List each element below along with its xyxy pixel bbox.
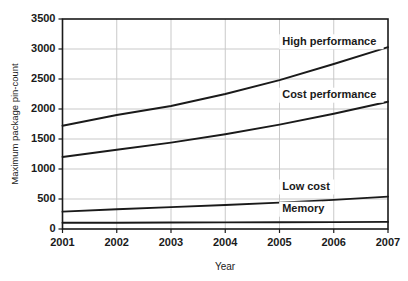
ytick-label-2000: 2000	[31, 102, 55, 114]
ytick-label-500: 500	[37, 192, 55, 204]
y-axis-tick-labels: 0500100015002000250030003500	[31, 12, 55, 234]
series-annotation-low-cost: Low cost	[282, 180, 330, 192]
ytick-label-3000: 3000	[31, 42, 55, 54]
xtick-label-2004: 2004	[213, 236, 238, 248]
chart-canvas: High performanceCost performanceLow cost…	[0, 0, 408, 281]
ytick-label-2500: 2500	[31, 72, 55, 84]
ytick-label-1000: 1000	[31, 162, 55, 174]
xtick-label-2002: 2002	[105, 236, 129, 248]
y-axis-title: Maximum package pin-count	[9, 63, 20, 185]
series-annotation-memory: Memory	[282, 202, 325, 214]
series-annotation-high-performance: High performance	[282, 35, 376, 47]
series-annotation-cost-performance: Cost performance	[282, 88, 376, 100]
pin-count-line-chart: High performanceCost performanceLow cost…	[0, 0, 408, 281]
series-annotations: High performanceCost performanceLow cost…	[279, 34, 383, 216]
ytick-label-3500: 3500	[31, 12, 55, 24]
x-axis-tick-labels: 2001200220032004200520062007	[50, 236, 400, 248]
ytick-label-1500: 1500	[31, 132, 55, 144]
ytick-label-0: 0	[49, 222, 55, 234]
xtick-label-2006: 2006	[322, 236, 346, 248]
xtick-label-2003: 2003	[159, 236, 183, 248]
axis-tick-marks	[59, 19, 389, 233]
xtick-label-2001: 2001	[50, 236, 74, 248]
x-axis-title: Year	[215, 261, 236, 272]
series-line-memory	[63, 222, 389, 223]
vertical-gridlines	[117, 19, 334, 229]
xtick-label-2007: 2007	[376, 236, 400, 248]
xtick-label-2005: 2005	[267, 236, 291, 248]
